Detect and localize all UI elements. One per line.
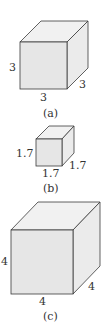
cube-b: 1.7 1.7 1.7 (b)	[16, 126, 87, 195]
cube-c-edge-left-label: 4	[1, 255, 8, 268]
cube-b-caption: (b)	[43, 182, 59, 195]
cube-b-edge-bottom-label: 1.7	[42, 167, 60, 180]
cube-b-edge-depth-label: 1.7	[69, 159, 87, 172]
cube-c-caption: (c)	[43, 310, 58, 323]
cube-c-edge-bottom-label: 4	[39, 295, 46, 308]
cube-b-front-face	[36, 139, 62, 166]
cube-b-edge-left-label: 1.7	[16, 147, 34, 160]
cube-c-edge-depth-label: 4	[88, 280, 95, 293]
cube-c: 4 4 4 (c)	[1, 202, 100, 323]
cube-a-caption: (a)	[43, 107, 58, 120]
cube-a: 3 3 3 (a)	[9, 21, 88, 120]
cube-a-edge-bottom-label: 3	[40, 91, 47, 104]
cube-a-edge-depth-label: 3	[79, 78, 86, 91]
cube-a-front-face	[20, 42, 67, 89]
cube-a-edge-left-label: 3	[9, 61, 16, 74]
cube-diagram: 3 3 3 (a) 1.7 1.7 1.7 (b) 4 4 4 (c)	[0, 0, 108, 324]
cube-c-front-face	[11, 230, 73, 294]
